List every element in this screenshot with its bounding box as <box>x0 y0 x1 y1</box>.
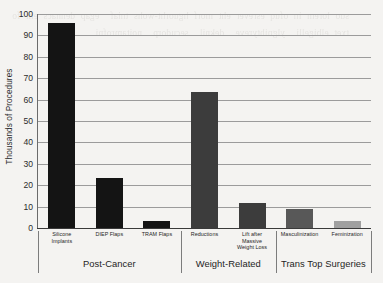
group-labels-band: Post-CancerWeight-RelatedTrans Top Surge… <box>38 258 371 280</box>
group-label-post-cancer: Post-Cancer <box>38 258 181 269</box>
group-separator-3 <box>371 231 372 273</box>
plot-area: 0102030405060708090100 <box>38 14 371 228</box>
y-tick-label-70: 70 <box>23 73 33 83</box>
gridline-90 <box>38 35 371 36</box>
gridline-100 <box>38 14 371 15</box>
category-label-line: Massive <box>228 238 276 245</box>
y-axis-title: Thousands of Procedures <box>2 0 16 232</box>
category-label-masculinization: Masculinization <box>276 231 324 238</box>
y-tick-label-90: 90 <box>23 30 33 40</box>
y-tick-label-20: 20 <box>23 180 33 190</box>
category-label-line: Masculinization <box>276 231 324 238</box>
bar-feminization[interactable] <box>334 221 361 228</box>
category-label-line: Silicone <box>38 231 86 238</box>
bar-silicone-implants[interactable] <box>48 23 75 228</box>
bar-lift-after-massive-weight-loss[interactable] <box>239 203 266 228</box>
category-label-line: Weight Loss <box>228 244 276 251</box>
category-label-reductions: Reductions <box>181 231 229 238</box>
category-label-line: TRAM Flaps <box>133 231 181 238</box>
category-label-feminization: Feminization <box>323 231 371 238</box>
group-separator-1 <box>181 231 182 273</box>
category-label-lift-after-massive-weight-loss: Lift afterMassiveWeight Loss <box>228 231 276 251</box>
category-label-silicone-implants: SiliconeImplants <box>38 231 86 244</box>
category-label-line: Lift after <box>228 231 276 238</box>
category-label-diep-flaps: DIEP Flaps <box>86 231 134 238</box>
y-tick-label-10: 10 <box>23 202 33 212</box>
group-separator-0 <box>38 231 39 273</box>
category-label-line: Feminization <box>323 231 371 238</box>
y-tick-label-0: 0 <box>28 223 33 233</box>
y-axis-title-label: Thousands of Procedures <box>5 68 14 164</box>
bar-tram-flaps[interactable] <box>143 221 170 228</box>
gridline-80 <box>38 57 371 58</box>
category-label-line: Implants <box>38 238 86 245</box>
y-tick-label-100: 100 <box>19 9 33 19</box>
bar-masculinization[interactable] <box>286 209 313 228</box>
y-tick-label-40: 40 <box>23 137 33 147</box>
bar-chart-figure: Thousands of Procedures 0102030405060708… <box>0 0 383 283</box>
y-tick-label-30: 30 <box>23 159 33 169</box>
bar-diep-flaps[interactable] <box>96 178 123 228</box>
y-tick-label-60: 60 <box>23 95 33 105</box>
group-label-trans-top-surgeries: Trans Top Surgeries <box>276 258 371 269</box>
y-tick-label-80: 80 <box>23 52 33 62</box>
category-label-line: DIEP Flaps <box>86 231 134 238</box>
gridline-0 <box>38 228 371 229</box>
category-labels-band: SiliconeImplantsDIEP FlapsTRAM FlapsRedu… <box>38 231 371 257</box>
group-label-weight-related: Weight-Related <box>181 258 276 269</box>
category-label-line: Reductions <box>181 231 229 238</box>
category-label-tram-flaps: TRAM Flaps <box>133 231 181 238</box>
group-separator-2 <box>276 231 277 273</box>
y-tick-label-50: 50 <box>23 116 33 126</box>
gridline-70 <box>38 78 371 79</box>
bar-reductions[interactable] <box>191 92 218 228</box>
